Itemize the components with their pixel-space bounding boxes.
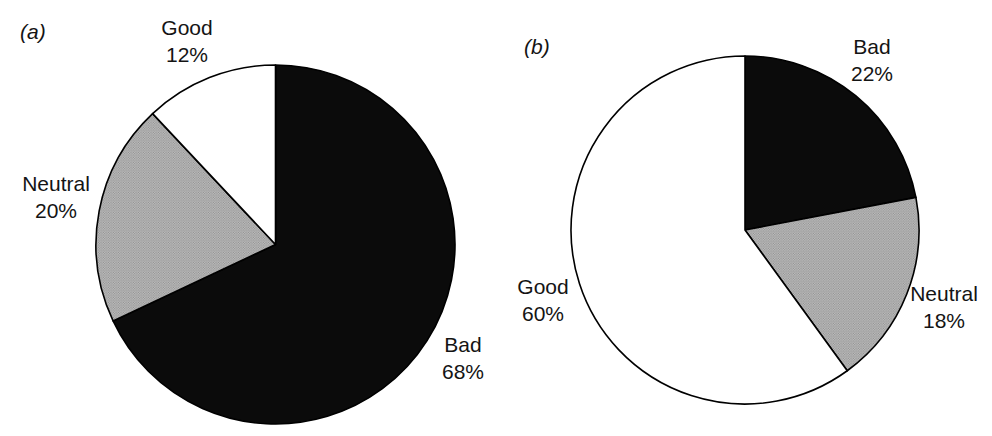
slice-name-neutral-a: Neutral (22, 170, 90, 197)
slice-name-good-a: Good (161, 14, 212, 41)
slice-name-good-b: Good (517, 273, 568, 300)
panel-label-a: (a) (20, 20, 46, 44)
slice-label-good-b: Good 60% (517, 273, 568, 327)
slice-pct-bad-b: 22% (851, 60, 893, 87)
pie-chart-b (569, 54, 921, 406)
slice-pct-good-a: 12% (161, 41, 212, 68)
slice-label-bad-b: Bad 22% (851, 33, 893, 87)
slice-pct-bad-a: 68% (442, 358, 484, 385)
slice-label-neutral-b: Neutral 18% (910, 280, 978, 334)
pie-chart-a (94, 63, 457, 426)
panel-label-b: (b) (524, 35, 550, 59)
slice-name-neutral-b: Neutral (910, 280, 978, 307)
slice-pct-good-b: 60% (517, 300, 568, 327)
slice-label-good-a: Good 12% (161, 14, 212, 68)
two-pie-chart-figure: (a) Good 12% Neutral 20% Bad 68% (b) Bad… (0, 0, 992, 436)
slice-pct-neutral-b: 18% (910, 307, 978, 334)
slice-pct-neutral-a: 20% (22, 197, 90, 224)
slice-label-bad-a: Bad 68% (442, 331, 484, 385)
slice-name-bad-b: Bad (851, 33, 893, 60)
slice-name-bad-a: Bad (442, 331, 484, 358)
slice-label-neutral-a: Neutral 20% (22, 170, 90, 224)
